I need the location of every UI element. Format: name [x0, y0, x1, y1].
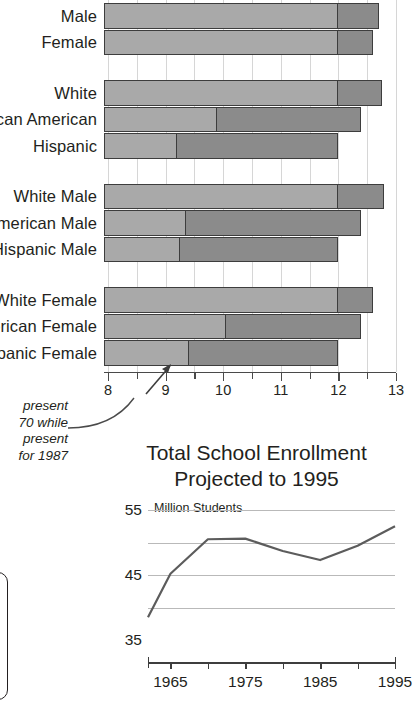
- x-axis-tick: [223, 373, 224, 381]
- x-axis-tick-label-11: 11: [266, 383, 296, 398]
- bar-label-white: White: [54, 85, 97, 102]
- x-axis-tick: [281, 373, 282, 381]
- x-axis-tick-label-13: 13: [381, 383, 411, 398]
- bar-label-female: Female: [41, 34, 97, 51]
- line-chart-x-tick: [170, 663, 171, 669]
- line-chart-x-tick: [320, 663, 321, 669]
- bar-label-african-american: African American: [0, 111, 97, 128]
- bar-label-white-female: White Female: [0, 292, 97, 309]
- bar-label-african-american-male: African American Male: [0, 215, 97, 232]
- line-chart-x-tick-label-1995: 1995: [372, 674, 413, 690]
- callout-box-outline: [0, 572, 8, 700]
- x-axis-tick: [367, 373, 368, 379]
- line-chart-x-tick-label-1985: 1985: [297, 674, 343, 690]
- bar-label-african-american-female: African American Female: [0, 318, 97, 335]
- bar-label-white-male: White Male: [13, 188, 97, 205]
- x-axis-tick: [108, 373, 109, 381]
- x-axis-tick: [396, 373, 397, 381]
- x-axis-tick: [137, 373, 138, 379]
- bar-label-male: Male: [61, 8, 97, 25]
- x-axis-tick: [252, 373, 253, 379]
- line-chart-x-tick: [283, 663, 284, 669]
- line-chart-x-tick: [208, 663, 209, 669]
- total-school-enrollment-line-chart: Total School Enrollment Projected to 199…: [100, 440, 413, 715]
- line-chart-x-tick-label-1965: 1965: [147, 674, 193, 690]
- line-chart-axis-end-tick: [148, 657, 149, 668]
- screenshot-root: MaleFemaleWhiteAfrican AmericanHispanicW…: [0, 0, 413, 715]
- x-axis-tick-label-10: 10: [208, 383, 238, 398]
- x-axis-tick: [338, 373, 339, 381]
- educational-attainment-bar-chart: MaleFemaleWhiteAfrican AmericanHispanicW…: [0, 0, 413, 400]
- bar-chart-category-labels: MaleFemaleWhiteAfrican AmericanHispanicW…: [0, 0, 413, 400]
- x-axis-tick-label-12: 12: [323, 383, 353, 398]
- line-chart-x-tick: [245, 663, 246, 669]
- line-chart-x-tick-label-1975: 1975: [222, 674, 268, 690]
- x-axis-tick: [310, 373, 311, 379]
- line-chart-x-tick: [358, 663, 359, 669]
- line-chart-x-tick: [395, 663, 396, 669]
- bar-label-hispanic: Hispanic: [33, 138, 97, 155]
- bar-label-hispanic-female: Hispanic Female: [0, 345, 97, 362]
- line-chart-series-path: [100, 440, 413, 670]
- annotation-arrow-icon: [140, 358, 200, 398]
- bar-label-hispanic-male: Hispanic Male: [0, 241, 97, 258]
